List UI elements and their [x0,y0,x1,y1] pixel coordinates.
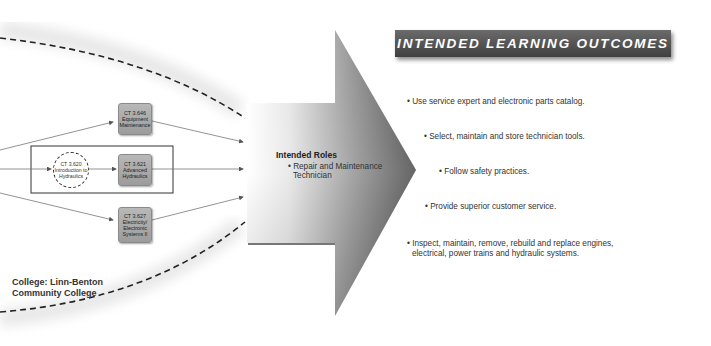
line-in-bottom [0,193,113,220]
intended-roles: Intended Roles • Repair and Maintenance … [276,150,396,180]
outcome-item: • Follow safety practices. [439,167,529,177]
line-out-top [152,121,243,142]
intended-role-item: • Repair and Maintenance [276,162,396,171]
course-box-advanced-hydraulics[interactable]: CT 3.621 Advanced Hydraulics [118,154,152,186]
course-title-line: Systems II [122,231,147,237]
intended-roles-title: Intended Roles [276,150,396,160]
course-circle-intro-hydraulics[interactable]: CT 3.620 Introduction to Hydraulics [53,152,89,188]
outcome-item: • Use service expert and electronic part… [407,97,585,107]
course-box-electricity-electronic[interactable]: CT 3.627 Electricity/ Electronic Systems… [118,207,152,243]
intended-role-item-continued: Technician [276,171,396,180]
ellipse-shadow-top [0,30,240,110]
outcome-item: • Select, maintain and store technician … [424,132,585,142]
line-out-bottom [152,197,243,220]
college-label-line1: College: Linn-Benton [12,277,103,288]
course-title-line: Hydraulics [122,173,147,179]
outcome-item: • Provide superior customer service. [425,202,556,212]
outcome-item: • Inspect, maintain, remove, rebuild and… [407,239,613,249]
course-box-equipment-maintenance[interactable]: CT 3.646 Equipment Maintenance [118,103,152,135]
college-label: College: Linn-Benton Community College [12,277,103,299]
course-title-line: Maintenance [120,122,151,128]
outcome-item-continued: electrical, power trains and hydraulic s… [412,249,579,259]
learning-outcomes-header: INTENDED LEARNING OUTCOMES [395,30,671,57]
college-label-line2: Community College [12,288,103,299]
course-title-line: Hydraulics [59,173,83,179]
